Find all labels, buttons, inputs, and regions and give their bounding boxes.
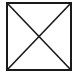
image-placeholder: [6, 2, 72, 71]
crossed-box-icon: [6, 2, 72, 71]
canvas: [0, 0, 74, 73]
